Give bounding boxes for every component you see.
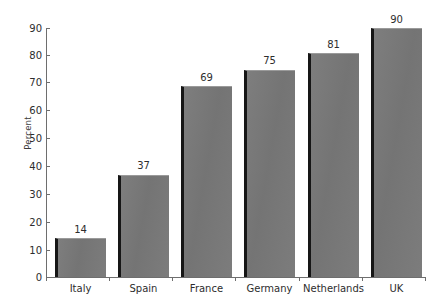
bar-france: 69 <box>181 28 232 277</box>
x-tick-mark <box>109 277 110 281</box>
y-tick-label: 70 <box>2 77 42 88</box>
y-tick-label: 60 <box>2 105 42 116</box>
bar-rect <box>371 28 422 277</box>
x-category-label-uk: UK <box>371 283 422 294</box>
bar-netherlands: 81 <box>308 28 359 277</box>
bar-spain: 37 <box>118 28 169 277</box>
y-tick-label: 20 <box>2 217 42 228</box>
bar-germany: 75 <box>244 28 295 277</box>
y-tick-label: 80 <box>2 50 42 61</box>
y-axis-line <box>46 28 47 277</box>
bar-value-label: 69 <box>181 72 232 83</box>
x-category-label-spain: Spain <box>118 283 169 294</box>
x-tick-mark <box>299 277 300 281</box>
y-tick-mark <box>46 166 50 167</box>
y-tick-label: 50 <box>2 133 42 144</box>
bar-chart: Percent 90 80 70 60 50 40 30 20 10 0 <box>0 0 430 307</box>
bar-value-label: 75 <box>244 55 295 66</box>
y-tick-label: 40 <box>2 161 42 172</box>
bar-rect <box>244 70 295 278</box>
x-tick-mark <box>172 277 173 281</box>
x-category-label-germany: Germany <box>244 283 295 294</box>
bar-rect <box>181 86 232 277</box>
y-tick-label: 90 <box>2 23 42 34</box>
bar-rect <box>308 53 359 277</box>
x-tick-mark <box>362 277 363 281</box>
y-tick-mark <box>46 28 50 29</box>
x-tick-mark <box>46 277 47 281</box>
bar-uk: 90 <box>371 28 422 277</box>
y-tick-label: 10 <box>2 245 42 256</box>
y-tick-label: 30 <box>2 189 42 200</box>
y-tick-mark <box>46 82 50 83</box>
y-tick-label: 0 <box>2 272 42 283</box>
y-tick-mark <box>46 194 50 195</box>
y-tick-mark <box>46 250 50 251</box>
bar-value-label: 90 <box>371 14 422 25</box>
x-tick-mark <box>235 277 236 281</box>
x-category-label-netherlands: Netherlands <box>298 283 369 294</box>
y-tick-mark <box>46 222 50 223</box>
y-tick-mark <box>46 55 50 56</box>
x-category-label-france: France <box>181 283 232 294</box>
bar-rect <box>118 175 169 277</box>
bar-value-label: 14 <box>55 224 106 235</box>
bar-value-label: 37 <box>118 160 169 171</box>
bar-rect <box>55 238 106 277</box>
bar-value-label: 81 <box>308 39 359 50</box>
x-category-label-italy: Italy <box>55 283 106 294</box>
x-tick-mark <box>425 277 426 281</box>
bar-italy: 14 <box>55 28 106 277</box>
y-tick-mark <box>46 138 50 139</box>
y-tick-mark <box>46 110 50 111</box>
